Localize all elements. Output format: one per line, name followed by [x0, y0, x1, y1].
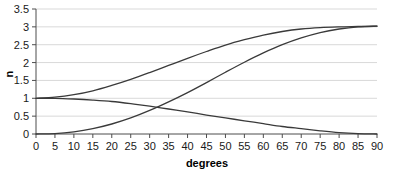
x-tick-label: 50: [219, 140, 231, 152]
x-tick-label: 10: [68, 140, 80, 152]
x-tick-label: 85: [352, 140, 364, 152]
y-axis-title: n: [3, 70, 15, 77]
x-tick-label: 5: [52, 140, 58, 152]
x-tick-label: 60: [257, 140, 269, 152]
x-tick-label: 70: [295, 140, 307, 152]
y-tick-label: 2: [23, 57, 29, 69]
x-tick-label: 45: [200, 140, 212, 152]
y-axis-tick-marks: [32, 9, 36, 134]
line-chart: 00.511.522.533.5 05101520253035404550556…: [0, 0, 394, 173]
y-tick-label: 2.5: [14, 39, 29, 51]
x-tick-label: 75: [314, 140, 326, 152]
x-tick-label: 55: [238, 140, 250, 152]
x-tick-label: 0: [33, 140, 39, 152]
x-tick-label: 40: [181, 140, 193, 152]
x-axis-tick-labels: 051015202530354045505560657075808590: [33, 140, 383, 152]
y-axis-tick-labels: 00.511.522.533.5: [14, 3, 29, 140]
y-tick-label: 1.5: [14, 74, 29, 86]
x-axis-title: degrees: [186, 157, 228, 169]
x-tick-label: 20: [106, 140, 118, 152]
y-tick-label: 3: [23, 21, 29, 33]
x-tick-label: 25: [125, 140, 137, 152]
y-tick-label: 0.5: [14, 110, 29, 122]
x-tick-label: 30: [144, 140, 156, 152]
x-tick-label: 15: [87, 140, 99, 152]
x-tick-label: 65: [276, 140, 288, 152]
x-tick-label: 80: [333, 140, 345, 152]
x-axis-tick-marks: [36, 134, 377, 138]
y-tick-label: 1: [23, 92, 29, 104]
y-tick-label: 0: [23, 128, 29, 140]
x-tick-label: 35: [162, 140, 174, 152]
chart-container: 00.511.522.533.5 05101520253035404550556…: [0, 0, 394, 173]
y-tick-label: 3.5: [14, 3, 29, 15]
x-tick-label: 90: [371, 140, 383, 152]
